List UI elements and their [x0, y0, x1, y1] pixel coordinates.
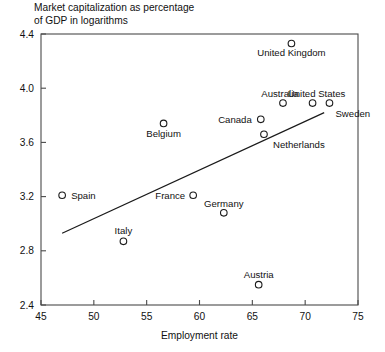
trend-line — [62, 113, 324, 234]
data-point-marker — [261, 131, 268, 138]
data-point-label: Germany — [204, 198, 244, 209]
y-tick-label: 2.8 — [20, 245, 34, 256]
data-point-label: France — [155, 190, 185, 201]
x-tick-label: 70 — [299, 311, 311, 322]
data-point-marker — [160, 120, 167, 127]
x-tick-label: 65 — [247, 311, 259, 322]
data-points-group: United KingdomAustraliaUnited StatesSwed… — [59, 40, 370, 288]
trend-line-group — [62, 113, 324, 234]
y-tick-label: 2.4 — [20, 300, 34, 311]
data-point-label: United States — [288, 88, 346, 99]
y-tick-label: 4.0 — [20, 83, 34, 94]
y-tick-label: 3.6 — [20, 137, 34, 148]
y-tick-label: 4.4 — [20, 29, 34, 40]
x-tick-label: 50 — [88, 311, 100, 322]
x-tick-label: 75 — [352, 311, 364, 322]
y-tick-label: 3.2 — [20, 191, 34, 202]
data-point-label: Canada — [218, 114, 252, 125]
scatter-plot-figure: Market capitalization as percentageof GD… — [0, 0, 385, 352]
x-tick-label: 60 — [194, 311, 206, 322]
data-point-label: Italy — [115, 225, 133, 236]
data-point-label: Austria — [244, 269, 275, 280]
x-axis-title: Employment rate — [41, 330, 358, 341]
x-tick-label: 45 — [35, 311, 47, 322]
data-point-marker — [288, 40, 295, 47]
data-point-marker — [255, 281, 262, 288]
data-point-marker — [190, 192, 197, 199]
data-point-label: United Kingdom — [257, 47, 325, 58]
x-axis-ticks: 45505560657075 — [35, 300, 364, 322]
data-point-label: Netherlands — [273, 139, 325, 150]
x-tick-label: 55 — [141, 311, 153, 322]
data-point-label: Sweden — [335, 108, 370, 119]
data-point-label: Belgium — [146, 128, 181, 139]
data-point-marker — [326, 100, 333, 107]
data-point-marker — [59, 192, 66, 199]
data-point-marker — [120, 238, 127, 245]
data-point-marker — [221, 210, 228, 217]
y-axis-ticks: 2.42.83.23.64.04.4 — [20, 29, 46, 311]
data-point-marker — [257, 116, 264, 123]
data-point-label: Spain — [71, 190, 96, 201]
data-point-marker — [280, 100, 287, 107]
plot-canvas: 45505560657075 2.42.83.23.64.04.4 United… — [0, 0, 385, 352]
data-point-marker — [309, 100, 316, 107]
